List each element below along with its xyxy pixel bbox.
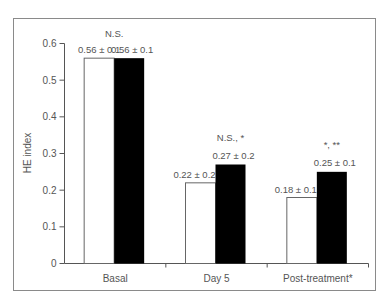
y-tick-label: 0.1 (43, 221, 57, 232)
y-tick-label: 0.2 (43, 185, 57, 196)
value-label: 0.25 ± 0.1 (314, 157, 356, 168)
bar-white (84, 58, 114, 263)
significance-label: N.S. (105, 28, 123, 39)
significance-label: N.S., * (217, 132, 245, 143)
bar-white (186, 183, 216, 264)
y-tick-label: 0.3 (43, 148, 57, 159)
bar-chart: 00.10.20.30.40.50.60.56 ± 0.10.56 ± 0.1N… (0, 0, 389, 302)
significance-label: *, ** (324, 139, 341, 150)
value-label: 0.56 ± 0.1 (111, 44, 153, 55)
category-label: Post-treatment* (283, 273, 353, 284)
value-label: 0.27 ± 0.2 (212, 150, 254, 161)
y-axis-label: HE index (22, 133, 33, 174)
bar-white (287, 198, 317, 264)
value-label: 0.18 ± 0.1 (275, 184, 317, 195)
value-label: 0.22 ± 0.2 (173, 169, 215, 180)
category-label: Basal (103, 273, 128, 284)
category-label: Day 5 (203, 273, 230, 284)
plot-area: 00.10.20.30.40.50.60.56 ± 0.10.56 ± 0.1N… (43, 28, 369, 284)
bar-black (317, 172, 347, 264)
y-tick-label: 0 (51, 258, 57, 269)
y-tick-label: 0.4 (43, 111, 57, 122)
y-tick-label: 0.6 (43, 38, 57, 49)
bar-black (216, 165, 246, 264)
bar-black (114, 58, 144, 263)
y-tick-label: 0.5 (43, 75, 57, 86)
